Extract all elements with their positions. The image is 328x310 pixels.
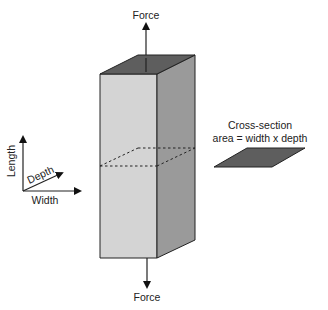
depth-label: Depth [25, 163, 56, 186]
width-label: Width [32, 194, 59, 206]
axes-legend: Length Depth Width [5, 137, 80, 206]
cross-section-formula: area = width x depth [213, 132, 308, 144]
bottom-force-label: Force [134, 291, 161, 303]
stress-diagram: Force Force Cross-section area = width x… [0, 0, 328, 310]
top-force-label: Force [133, 9, 160, 21]
prism-front-face [100, 74, 157, 258]
length-label: Length [5, 145, 17, 177]
cross-section-title: Cross-section [228, 119, 292, 131]
cross-section-shape [214, 148, 305, 167]
